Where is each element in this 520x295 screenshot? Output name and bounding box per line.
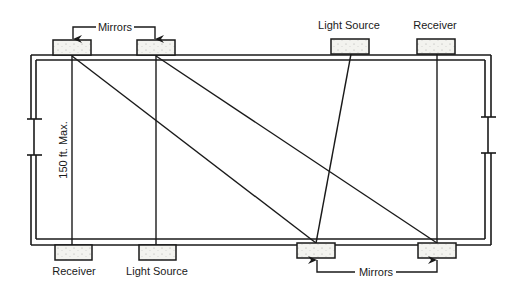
top-receiver — [417, 39, 455, 54]
bottom-mirror-2 — [418, 243, 456, 258]
beam-2-diagonal — [156, 56, 437, 243]
beam-1-diagonal — [72, 56, 316, 243]
right-wall-break — [481, 117, 496, 153]
top-devices — [53, 39, 455, 55]
top-light-source — [331, 39, 369, 54]
beam-3-light-source — [316, 54, 351, 243]
bottom-mirrors-label: Mirrors — [359, 266, 394, 278]
left-wall-break — [27, 119, 42, 155]
arrow-left-icon — [73, 27, 96, 39]
room-wall-inner — [36, 60, 485, 239]
top-light-source-label: Light Source — [318, 19, 380, 31]
beam-paths — [72, 54, 437, 245]
top-receiver-label: Receiver — [413, 19, 457, 31]
arrow-up-right-icon — [396, 260, 437, 272]
arrow-right-icon — [134, 27, 155, 39]
top-mirror-2 — [137, 40, 175, 55]
bottom-mirror-1 — [297, 243, 335, 258]
bottom-light-source — [139, 245, 176, 260]
top-mirrors-label: Mirrors — [98, 21, 133, 33]
distance-label: 150 ft. Max. — [57, 121, 69, 178]
room-wall-outer — [31, 55, 491, 245]
bottom-receiver-label: Receiver — [52, 265, 96, 277]
bottom-receiver — [55, 245, 92, 260]
top-mirror-1 — [53, 40, 91, 55]
bottom-light-source-label: Light Source — [126, 265, 188, 277]
beam-detector-diagram: Mirrors Light Source Receiver Receiver L… — [0, 0, 520, 295]
arrow-up-left-icon — [317, 260, 355, 272]
